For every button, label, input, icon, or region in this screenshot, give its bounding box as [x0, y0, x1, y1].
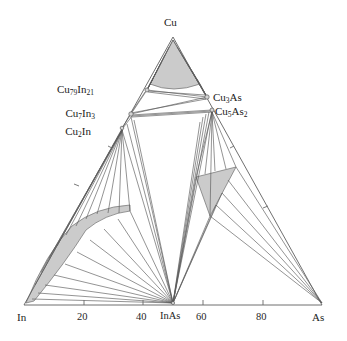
compound-label-cu3as: Cu3As [213, 92, 242, 103]
node-cu79in21 [145, 88, 149, 92]
vertex-label-in: In [17, 312, 26, 323]
axis-tick-label-40: 40 [136, 312, 147, 323]
tie-lines-inas-to-as-region [173, 193, 222, 303]
vertex-label-as: As [312, 312, 324, 323]
edge-cu-in [24, 37, 173, 305]
axis-tick-label-80: 80 [256, 312, 267, 323]
node-cu2in [120, 126, 124, 130]
tick-left-edge-1 [74, 184, 79, 186]
as-rich-liquid-region [196, 167, 236, 216]
compound-label-cu5as2: Cu5As2 [215, 106, 248, 117]
in-rich-liquid-region [26, 205, 130, 303]
axis-tick-label-inas: InAs [160, 311, 180, 322]
compound-label-cu79in21: Cu79In21 [57, 84, 94, 95]
tie-lines-cu7in3-to-cuas-compounds [131, 97, 213, 117]
node-cu7in3 [129, 112, 133, 116]
node-inas [171, 301, 174, 304]
node-cu3as [205, 95, 209, 99]
tie-lines-as-liquid-to-as-vertex [210, 167, 322, 303]
edge-cu-as [173, 37, 322, 305]
axis-tick-label-20: 20 [77, 312, 88, 323]
node-cu5as2 [210, 108, 214, 112]
tie-lines-inas-to-cuas-compounds [173, 110, 212, 303]
tick-right-edge-2 [230, 146, 234, 148]
compound-label-cu2in: Cu2In [65, 126, 91, 137]
shaded-phase-fields [26, 40, 236, 303]
phase-diagram-canvas [0, 0, 347, 341]
tie-lines-cu79in21-to-cu3as [147, 90, 207, 99]
vertex-label-cu: Cu [164, 17, 177, 28]
ternary-phase-diagram-figure: Cu In As 20 40 InAs 60 80 Cu79In21 Cu7In… [0, 0, 347, 341]
axis-tick-label-60: 60 [196, 312, 207, 323]
compound-label-cu7in3: Cu7In3 [65, 108, 95, 119]
